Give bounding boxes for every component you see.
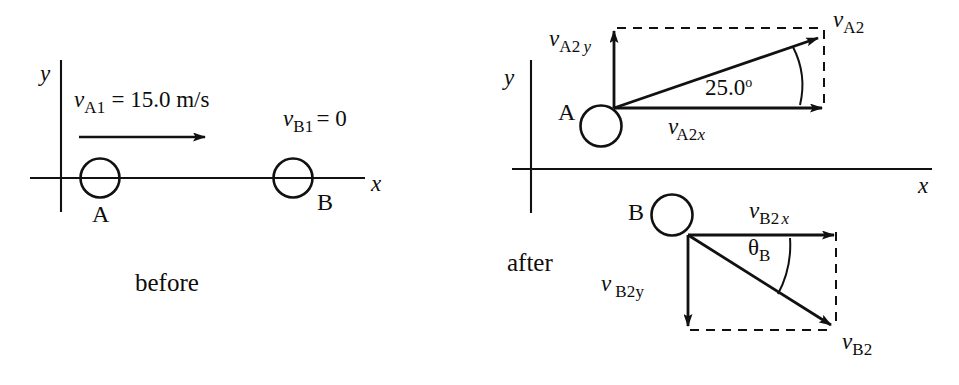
after-y-axis-label: y bbox=[504, 66, 514, 89]
theta-symbol: θ bbox=[748, 235, 759, 260]
va2-symbol: v bbox=[833, 7, 843, 32]
vb2x-label: vB2x bbox=[749, 199, 789, 227]
va2-subscript: A2 bbox=[843, 18, 864, 37]
after-puck-b-label: B bbox=[628, 200, 644, 224]
va2y-symbol: v bbox=[549, 26, 559, 51]
after-phase-label: after bbox=[507, 250, 553, 275]
angle-25deg-value: 25.0 bbox=[705, 75, 745, 100]
va2x-label: vA2x bbox=[668, 115, 705, 143]
va1-symbol: v bbox=[74, 87, 84, 112]
before-phase-label: before bbox=[135, 270, 199, 295]
vb2x-subscript-italic: x bbox=[781, 209, 789, 228]
angle-arc-theta-b bbox=[778, 238, 790, 294]
after-puck-a-label: A bbox=[558, 100, 575, 124]
before-y-axis-label: y bbox=[40, 62, 50, 85]
physics-collision-figure: y x vA1= 15.0 m/s vB1= 0 A B before y x … bbox=[0, 0, 959, 385]
vb2x-subscript: B2 bbox=[759, 209, 779, 228]
puck-a-after bbox=[581, 106, 622, 147]
vb1-equation-label: vB1= 0 bbox=[283, 107, 347, 135]
va1-subscript: A1 bbox=[84, 98, 105, 117]
va2x-subscript: A2 bbox=[676, 126, 697, 143]
va2y-subscript-italic: y bbox=[583, 37, 591, 56]
vb2-subscript: B2 bbox=[852, 340, 872, 359]
vb2y-subscript: B2y bbox=[615, 283, 644, 300]
vb1-subscript: B1 bbox=[293, 117, 313, 136]
va1-equation-value: = 15.0 m/s bbox=[111, 87, 209, 112]
va2y-label: vA2y bbox=[549, 27, 591, 55]
theta-b-label: θB bbox=[748, 236, 771, 264]
vb2-resultant-label: vB2 bbox=[842, 330, 872, 358]
before-puck-a-label: A bbox=[92, 202, 109, 226]
angle-25deg-label: 25.0o bbox=[705, 76, 752, 99]
va1-equation-label: vA1= 15.0 m/s bbox=[74, 88, 209, 116]
puck-b-after bbox=[652, 195, 693, 236]
before-x-axis-label: x bbox=[371, 172, 381, 195]
va2x-subscript-italic: x bbox=[697, 125, 705, 144]
vector-drawing-layer bbox=[0, 0, 959, 385]
angle-arc-25deg bbox=[793, 47, 802, 105]
va2-resultant-label: vA2 bbox=[833, 8, 864, 36]
vb2x-symbol: v bbox=[749, 198, 759, 223]
vb2-symbol: v bbox=[842, 329, 852, 354]
degree-mark-icon: o bbox=[745, 75, 752, 90]
theta-b-subscript: B bbox=[759, 246, 771, 265]
vb1-symbol: v bbox=[283, 106, 293, 131]
vb2y-label: vB2y bbox=[601, 272, 644, 300]
vb2y-symbol: v bbox=[601, 271, 611, 296]
after-x-axis-label: x bbox=[918, 174, 928, 197]
va2y-subscript: A2 bbox=[559, 37, 580, 56]
vb1-equation-value: = 0 bbox=[316, 106, 346, 131]
before-puck-b-label: B bbox=[317, 190, 333, 214]
